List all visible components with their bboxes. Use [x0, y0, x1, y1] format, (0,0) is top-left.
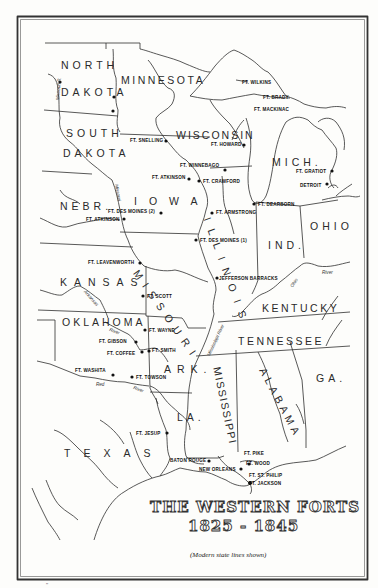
fort-label-leavenworth: FT. LEAVENWORTH [88, 261, 134, 266]
state-label-minnesota: MINNESOTA [121, 75, 205, 86]
state-label-louisiana: LA. [177, 412, 205, 423]
state-label-indiana: IND. [268, 240, 305, 251]
fort-label-des-moines-2: FT. DES MOINES (2) [108, 210, 155, 215]
fort-label-wilkins: FT. WILKINS [242, 81, 271, 86]
fort-label-armstrong: FT. ARMSTRONG [216, 211, 256, 216]
river-label-red: Red [96, 383, 104, 388]
fort-label-washita: FT. WASHITA [75, 369, 106, 374]
state-label-ohio: OHIO [310, 221, 353, 232]
state-label-arkansas: ARK. [164, 364, 213, 375]
fort-label-jesup: FT. JESUP [136, 432, 161, 437]
state-label-south-dakota-1: SOUTH [66, 128, 123, 139]
state-label-north-dakota-1: NORTH [61, 60, 118, 71]
page-mark: " [46, 582, 48, 588]
fort-label-howard: FT. HOWARD [211, 143, 242, 148]
fort-label-new-orleans: NEW ORLEANS [199, 468, 236, 473]
map-note: (Modern state lines shown) [190, 551, 266, 559]
fort-label-coffee: FT. COFFEE [107, 352, 135, 357]
fort-label-gratiot: FT. GRATIOT [296, 170, 326, 175]
river-label-ohio: River [322, 271, 333, 276]
fort-label-snelling: FT. SNELLING [130, 139, 163, 144]
fort-label-wood: FT. WOOD [246, 462, 270, 467]
state-label-georgia: GA. [316, 373, 346, 384]
state-label-south-dakota-2: DAKOTA [63, 148, 129, 159]
fort-label-winnebago: FT. WINNEBAGO [180, 164, 219, 169]
state-label-kansas: KANSAS [60, 277, 145, 288]
fort-label-baton-rouge: BATON ROUGE [170, 459, 206, 464]
fort-label-wayne: FT. WAYNE [149, 329, 175, 334]
map-title-line-1: THE WESTERN FORTS [150, 498, 360, 516]
fort-label-smith: FT. SMITH [152, 349, 176, 354]
fort-label-des-moines-1: FT. DES MOINES (1) [200, 239, 247, 244]
fort-label-crawford: FT. CRAWFORD [203, 180, 240, 185]
fort-label-jefferson-barracks: JEFFERSON BARRACKS [219, 277, 278, 282]
fort-label-brady: FT. BRADY [263, 96, 289, 101]
state-label-north-dakota-2: DAKOTA [61, 87, 127, 98]
fort-label-dearborn: FT. DEARBORN [258, 203, 295, 208]
fort-label-scott: FT. SCOTT [147, 295, 172, 300]
fort-label-jackson: FT. JACKSON [249, 482, 281, 487]
fort-label-atkinson-ne: FT. ATKINSON [86, 218, 120, 223]
fort-label-gibson: FT. GIBSON [99, 340, 127, 345]
state-label-wisconsin: WISCONSIN [176, 130, 255, 141]
fort-label-atkinson-ia: FT. ATKINSON [152, 176, 186, 181]
state-label-oklahoma: OKLAHOMA [62, 317, 146, 328]
state-label-iowa: IOWA [134, 196, 210, 207]
fort-label-towson: FT. TOWSON [136, 376, 166, 381]
state-label-tennessee: TENNESSEE [238, 336, 324, 347]
state-label-michigan: MICH. [272, 157, 322, 168]
fort-label-mackinac: FT. MACKINAC [254, 108, 289, 113]
map-title-line-2: 1825 - 1845 [188, 517, 299, 535]
fort-label-detroit: DETROIT [300, 184, 322, 189]
fort-label-pike: FT. PIKE [244, 452, 264, 457]
state-label-nebraska: NEBR. [60, 201, 112, 212]
fort-label-st-philip: FT. ST. PHILIP [249, 474, 282, 479]
state-label-kentucky: KENTUCKY [262, 303, 339, 314]
state-label-texas: TEXAS [64, 448, 163, 459]
